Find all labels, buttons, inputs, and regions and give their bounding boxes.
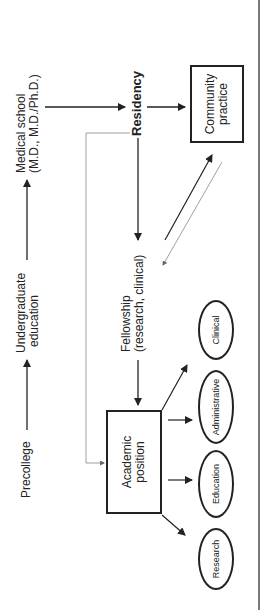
administrative-oval: Administrative bbox=[198, 370, 234, 444]
education-oval: Education bbox=[198, 450, 234, 518]
community-practice-box: Community practice bbox=[190, 65, 244, 143]
community-practice-line-2: practice bbox=[217, 74, 230, 135]
residency-label: Residency bbox=[130, 71, 143, 136]
career-pathway-diagram: Precollege Undergraduate education Medic… bbox=[0, 0, 269, 610]
academic-position-line-2: position bbox=[134, 436, 147, 489]
medical-school-label: Medical school (M.D., M.D./Ph.D.) bbox=[15, 74, 41, 173]
fellowship-label: Fellowship (research, clinical) bbox=[120, 255, 146, 352]
undergraduate-line-2: education bbox=[28, 273, 41, 353]
academic-position-box: Academic position bbox=[106, 410, 162, 514]
precollege-label: Precollege bbox=[20, 441, 33, 498]
clinical-oval: Clinical bbox=[198, 300, 234, 360]
undergraduate-label: Undergraduate education bbox=[15, 273, 41, 353]
research-oval: Research bbox=[198, 528, 234, 590]
medical-school-line-2: (M.D., M.D./Ph.D.) bbox=[28, 74, 41, 173]
fellowship-line-2: (research, clinical) bbox=[133, 255, 146, 352]
